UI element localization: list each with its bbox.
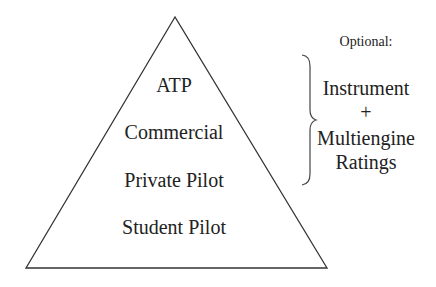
level-private-pilot: Private Pilot (124, 169, 223, 192)
level-atp: ATP (156, 74, 192, 97)
level-commercial: Commercial (125, 121, 224, 144)
optional-title: Optional: (340, 34, 393, 50)
optional-multiengine: Multiengine (317, 127, 415, 149)
optional-ratings: Ratings (335, 151, 396, 173)
optional-plus: + (360, 101, 371, 123)
optional-instrument: Instrument (323, 77, 410, 99)
level-student-pilot: Student Pilot (122, 216, 226, 239)
curly-brace (302, 55, 316, 185)
